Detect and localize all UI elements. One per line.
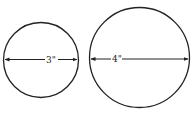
small-circle-label: 3" (46, 55, 56, 65)
large-circle: 4" (90, 8, 190, 108)
small-circle: 3" (4, 23, 79, 98)
large-circle-label: 4" (112, 54, 122, 64)
circle-diameter-diagram: 3" 4" (0, 0, 192, 116)
